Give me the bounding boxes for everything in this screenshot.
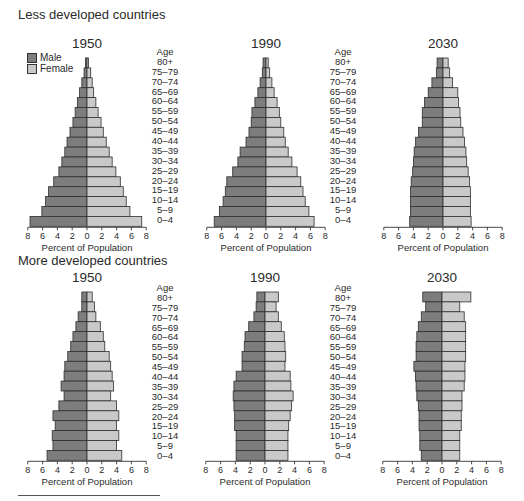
bar-male-10–14 — [52, 431, 87, 441]
x-tick-label: 0 — [84, 231, 89, 241]
bar-male-60–64 — [417, 332, 442, 342]
bar-female-40–44 — [266, 137, 285, 147]
bar-male-70–74 — [421, 312, 442, 322]
x-tick-label: 8 — [25, 465, 30, 475]
pyramid-less-1990: 1990864202468Percent of Population — [204, 36, 327, 253]
x-tick-label: 6 — [395, 465, 400, 475]
bar-male-40–44 — [236, 371, 265, 381]
bar-female-40–44 — [442, 371, 465, 381]
bar-male-25–29 — [413, 167, 443, 177]
x-axis-label: Percent of Population — [220, 476, 311, 487]
bar-female-35–39 — [265, 381, 291, 391]
bar-male-55–59 — [75, 108, 87, 118]
bar-male-15–19 — [55, 421, 87, 431]
bar-male-0–4 — [410, 216, 443, 226]
bar-female-35–39 — [87, 381, 114, 391]
bar-male-20–24 — [53, 411, 87, 421]
bar-female-70–74 — [87, 78, 92, 88]
bar-male-45–49 — [249, 127, 266, 137]
x-tick-label: 2 — [70, 465, 75, 475]
x-tick-label: 2 — [248, 465, 253, 475]
bar-male-50–54 — [68, 351, 87, 361]
bar-male-70–74 — [260, 78, 266, 88]
bar-female-0–4 — [443, 216, 471, 226]
bar-male-60–64 — [73, 332, 87, 342]
bar-male-80+ — [257, 292, 265, 302]
bar-male-35–39 — [65, 147, 87, 157]
bar-female-15–19 — [442, 421, 461, 431]
x-tick-label: 8 — [322, 465, 327, 475]
bar-male-75–79 — [84, 68, 87, 78]
bar-female-20–24 — [443, 177, 470, 187]
bar-female-75–79 — [443, 68, 450, 78]
bar-female-30–34 — [265, 391, 293, 401]
bar-female-20–24 — [265, 411, 290, 421]
caption-divider — [18, 495, 160, 496]
bar-female-30–34 — [87, 391, 111, 401]
x-tick-label: 2 — [454, 465, 459, 475]
bar-male-5–9 — [42, 207, 87, 217]
bar-female-50–54 — [442, 351, 466, 361]
bar-male-50–54 — [73, 117, 87, 127]
x-tick-label: 8 — [323, 231, 328, 241]
x-tick-label: 0 — [263, 231, 268, 241]
x-axis-label: Percent of Population — [221, 242, 312, 253]
bar-female-10–14 — [266, 197, 305, 207]
bar-female-80+ — [265, 292, 278, 302]
x-tick-label: 0 — [84, 465, 89, 475]
bar-female-60–64 — [87, 332, 103, 342]
bar-female-10–14 — [265, 431, 288, 441]
bar-male-55–59 — [422, 108, 443, 118]
x-tick-label: 2 — [455, 231, 460, 241]
x-axis-label: Percent of Population — [42, 242, 133, 253]
pyramid-more-1950: 1950864202468Percent of Population — [25, 270, 148, 487]
bar-female-65–69 — [265, 322, 281, 332]
bar-male-45–49 — [70, 127, 87, 137]
bar-male-45–49 — [65, 361, 87, 371]
bar-female-0–4 — [442, 450, 460, 460]
x-tick-label: 0 — [440, 231, 445, 241]
bar-male-20–24 — [419, 411, 442, 421]
bar-female-55–59 — [87, 108, 98, 118]
bar-female-35–39 — [442, 381, 464, 391]
bar-female-10–14 — [442, 431, 460, 441]
x-axis-label: Percent of Population — [397, 476, 488, 487]
bar-male-5–9 — [420, 441, 442, 451]
bar-male-30–34 — [413, 157, 443, 167]
bar-male-40–44 — [416, 137, 443, 147]
bar-female-20–24 — [442, 411, 461, 421]
bar-female-55–59 — [265, 342, 285, 352]
bar-female-50–54 — [443, 117, 461, 127]
bar-male-10–14 — [410, 197, 443, 207]
pyramid-more-2030: 2030864202468Percent of Population — [380, 270, 503, 487]
x-tick-label: 6 — [129, 231, 134, 241]
bar-female-25–29 — [442, 401, 462, 411]
x-tick-label: 8 — [25, 231, 30, 241]
bar-male-65–69 — [258, 88, 266, 98]
bar-female-30–34 — [443, 157, 467, 167]
bar-male-25–29 — [234, 401, 265, 411]
x-tick-label: 4 — [470, 231, 475, 241]
bar-male-45–49 — [242, 361, 265, 371]
bar-male-50–54 — [251, 117, 266, 127]
bar-male-10–14 — [420, 431, 442, 441]
bar-female-45–49 — [442, 361, 465, 371]
x-tick-label: 4 — [114, 465, 119, 475]
bar-male-15–19 — [225, 187, 266, 197]
bar-female-50–54 — [87, 351, 109, 361]
bar-female-5–9 — [265, 441, 288, 451]
x-tick-label: 6 — [485, 231, 490, 241]
x-tick-label: 4 — [234, 231, 239, 241]
x-tick-label: 4 — [469, 465, 474, 475]
bar-female-40–44 — [87, 371, 112, 381]
bar-male-15–19 — [49, 187, 87, 197]
bar-male-45–49 — [419, 127, 443, 137]
bar-female-15–19 — [266, 187, 303, 197]
bar-male-70–74 — [432, 78, 443, 88]
bar-female-70–74 — [87, 312, 96, 322]
bar-female-60–64 — [442, 332, 466, 342]
bar-female-65–69 — [87, 322, 100, 332]
bar-male-65–69 — [80, 88, 87, 98]
bar-male-55–59 — [416, 342, 442, 352]
bar-female-40–44 — [87, 137, 106, 147]
